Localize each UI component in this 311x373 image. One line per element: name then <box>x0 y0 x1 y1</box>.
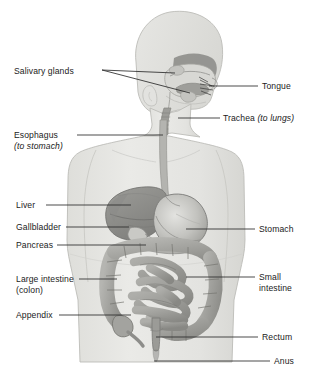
label-tongue-text: Tongue <box>262 81 291 91</box>
label-salivary-glands: Salivary glands <box>14 66 74 77</box>
label-trachea-text: Trachea <box>223 113 257 123</box>
label-appendix: Appendix <box>16 310 53 321</box>
label-large-intestine-text: Large intestine <box>16 274 74 284</box>
label-salivary-glands-text: Salivary glands <box>14 66 74 76</box>
label-esophagus-text: Esophagus <box>14 130 58 140</box>
label-small-intestine: Smallintestine <box>259 272 292 293</box>
label-gallbladder-text: Gallbladder <box>16 222 61 232</box>
label-trachea: Trachea (to lungs) <box>223 113 294 124</box>
label-large-intestine-subtext: (colon) <box>16 285 74 296</box>
label-rectum-text: Rectum <box>262 332 292 342</box>
label-anus: Anus <box>274 356 294 367</box>
label-stomach-text: Stomach <box>259 224 294 234</box>
label-large-intestine: Large intestine(colon) <box>16 274 74 295</box>
label-stomach: Stomach <box>259 224 294 235</box>
label-pancreas-text: Pancreas <box>16 240 53 250</box>
label-esophagus-subtext-italic: (to stomach) <box>14 141 63 151</box>
label-small-intestine-subtext: intestine <box>259 283 292 294</box>
label-esophagus: Esophagus(to stomach) <box>14 130 63 151</box>
label-rectum: Rectum <box>262 332 292 343</box>
label-liver: Liver <box>16 200 35 211</box>
label-tongue: Tongue <box>262 81 291 92</box>
label-anus-text: Anus <box>274 356 294 366</box>
label-appendix-text: Appendix <box>16 310 53 320</box>
label-small-intestine-text: Small <box>259 272 281 282</box>
label-trachea-qualifier: (to lungs) <box>257 113 294 123</box>
label-liver-text: Liver <box>16 200 35 210</box>
label-esophagus-subtext: (to stomach) <box>14 141 63 152</box>
label-gallbladder: Gallbladder <box>16 222 61 233</box>
digestive-system-figure: Salivary glandsEsophagus(to stomach)Live… <box>0 0 311 373</box>
label-pancreas: Pancreas <box>16 240 53 251</box>
